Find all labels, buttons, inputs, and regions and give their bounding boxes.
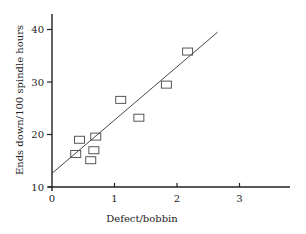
x-tick-label: 3	[236, 193, 242, 204]
data-point	[134, 114, 144, 121]
data-point	[89, 147, 99, 154]
y-tick-label: 40	[31, 24, 44, 35]
x-tick-label: 0	[49, 193, 55, 204]
y-axis-label: Ends down/100 spindle hours	[14, 25, 25, 175]
data-point	[75, 136, 85, 143]
x-tick-label: 1	[111, 193, 117, 204]
scatter-chart: 102030400123 Defect/bobbin Ends down/100…	[0, 0, 306, 234]
data-point	[161, 81, 171, 88]
axes: 102030400123	[31, 14, 290, 204]
data-point	[183, 48, 193, 55]
data-point	[86, 157, 96, 164]
y-tick-label: 10	[31, 182, 44, 193]
y-tick-label: 20	[31, 129, 44, 140]
y-tick-label: 30	[31, 77, 44, 88]
x-tick-label: 2	[174, 193, 180, 204]
data-point	[116, 96, 126, 103]
x-axis-label: Defect/bobbin	[106, 213, 178, 224]
